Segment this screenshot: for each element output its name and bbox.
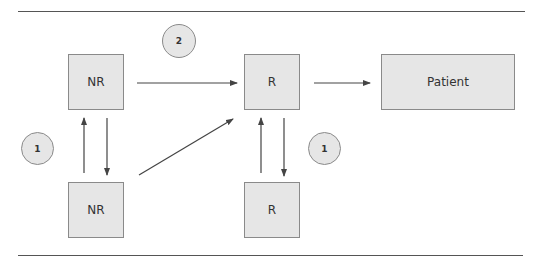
node-label: R	[268, 203, 276, 217]
step-badge-1-right: 1	[308, 132, 341, 165]
node-r-top: R	[244, 54, 300, 110]
step-badge-1-left: 1	[21, 132, 54, 165]
node-label: NR	[87, 75, 104, 89]
node-patient: Patient	[381, 54, 515, 110]
node-label: Patient	[427, 75, 469, 89]
node-r-bottom: R	[244, 182, 300, 238]
arrow-nr-bottom-to-r-top	[139, 119, 233, 175]
node-label: NR	[87, 203, 104, 217]
node-nr-top: NR	[68, 54, 124, 110]
node-nr-bottom: NR	[68, 182, 124, 238]
badge-label: 2	[176, 36, 182, 46]
badge-label: 1	[321, 144, 327, 154]
step-badge-2: 2	[162, 24, 196, 58]
flow-diagram: NR R Patient NR R 2 1 1	[0, 0, 533, 260]
badge-label: 1	[34, 144, 40, 154]
node-label: R	[268, 75, 276, 89]
